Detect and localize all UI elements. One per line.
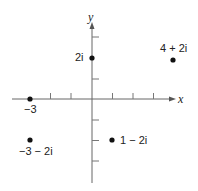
point-2i (89, 55, 94, 60)
y-axis-label: y (88, 11, 93, 23)
x-axis-arrow-icon (169, 97, 176, 102)
label-2i: 2i (75, 52, 84, 63)
point-minus-3 (27, 96, 32, 101)
label-minus-3: −3 (24, 104, 37, 115)
label-1-minus-2i: 1 − 2i (120, 135, 147, 146)
x-axis-label: x (178, 93, 183, 105)
complex-plane (0, 0, 198, 191)
point-4-plus-2i (170, 57, 175, 62)
x-ticks (51, 93, 154, 99)
label-minus-3-minus-2i: −3 − 2i (19, 146, 53, 157)
point-1-minus-2i (109, 137, 114, 142)
point-minus-3-minus-2i (27, 137, 32, 142)
label-4-plus-2i: 4 + 2i (160, 43, 187, 54)
